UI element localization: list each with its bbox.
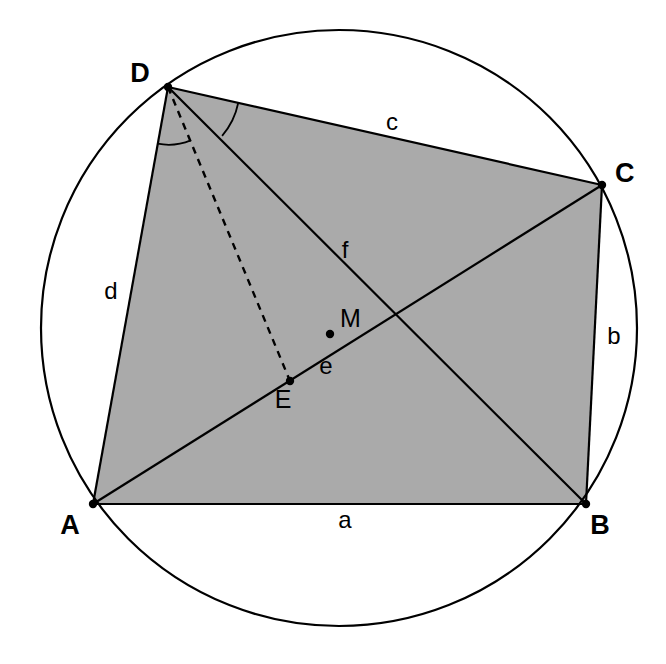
side-label-b: b	[607, 322, 620, 349]
vertex-label-c: C	[615, 158, 635, 188]
vertex-dot-a	[89, 500, 97, 508]
vertex-dot-d	[164, 83, 172, 91]
point-label-e: E	[275, 385, 292, 413]
diagonal-label-e: e	[319, 352, 332, 379]
vertex-dot-c	[598, 181, 606, 189]
geometry-canvas: A B C D M E a b c d e f	[0, 0, 666, 664]
point-dot-m	[326, 330, 334, 338]
geometry-figure: A B C D M E a b c d e f	[0, 0, 666, 664]
quadrilateral-abcd-fill	[93, 87, 602, 504]
vertex-label-d: D	[130, 58, 150, 88]
diagonal-label-f: f	[342, 236, 349, 263]
side-label-c: c	[386, 108, 398, 135]
vertex-label-b: B	[590, 510, 610, 540]
side-label-d: d	[104, 277, 117, 304]
side-label-a: a	[338, 506, 352, 533]
point-label-m: M	[340, 304, 361, 332]
vertex-dot-b	[582, 500, 590, 508]
point-dot-e	[286, 377, 294, 385]
vertex-label-a: A	[60, 510, 80, 540]
